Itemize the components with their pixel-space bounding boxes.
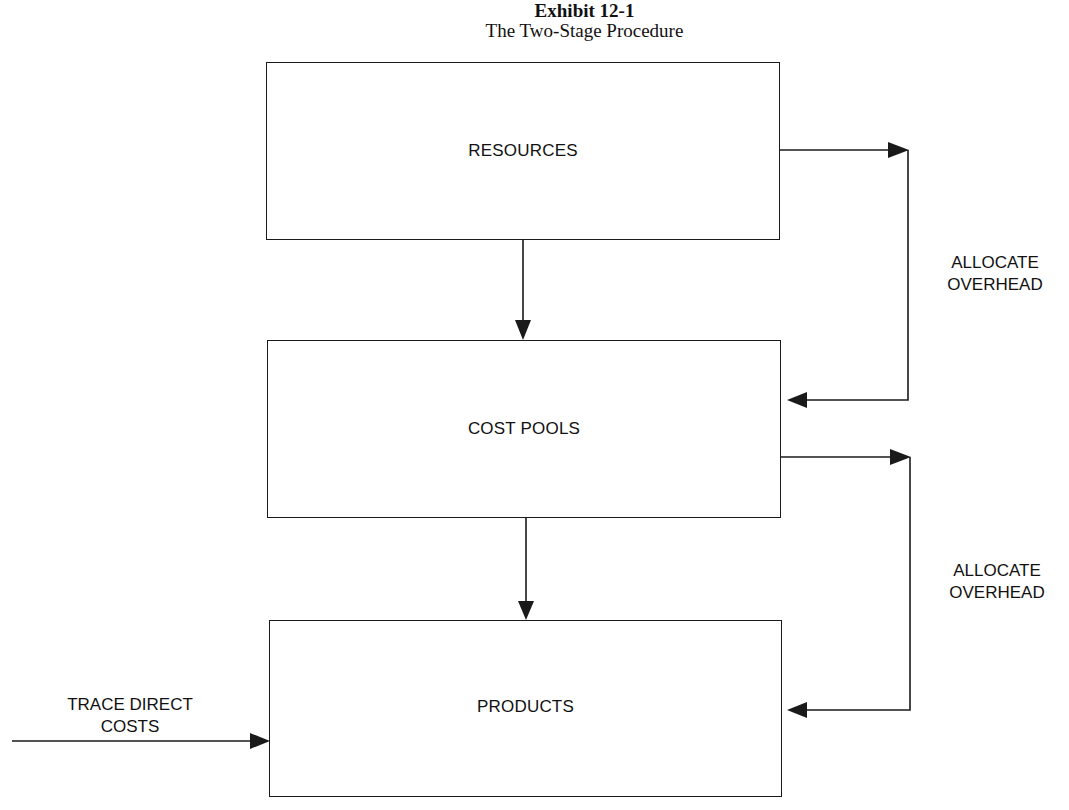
overhead-line: OVERHEAD [932, 582, 1062, 604]
products-label: PRODUCTS [477, 697, 574, 717]
trace-direct-line: TRACE DIRECT [40, 694, 220, 716]
overhead-line: OVERHEAD [930, 274, 1060, 296]
trace-direct-costs-label: TRACE DIRECT COSTS [40, 694, 220, 738]
cost-pools-box: COST POOLS [267, 340, 781, 518]
products-box: PRODUCTS [269, 620, 782, 797]
resources-box: RESOURCES [266, 62, 780, 240]
allocate-overhead-label-1: ALLOCATE OVERHEAD [930, 252, 1060, 296]
cost-pools-label: COST POOLS [468, 419, 580, 439]
allocate-line: ALLOCATE [932, 560, 1062, 582]
resources-label: RESOURCES [468, 141, 578, 161]
allocate-overhead-label-2: ALLOCATE OVERHEAD [932, 560, 1062, 604]
allocate-line: ALLOCATE [930, 252, 1060, 274]
costs-line: COSTS [40, 716, 220, 738]
